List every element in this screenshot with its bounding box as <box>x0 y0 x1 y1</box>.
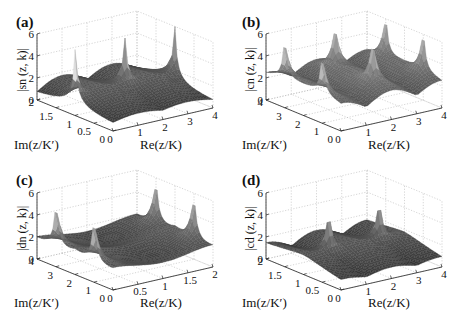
z-axis-label-b: |cn (z, k)| <box>243 48 258 92</box>
x-tick-label: 3 <box>416 274 422 286</box>
y-tick <box>304 274 307 275</box>
y-tick-label: 1 <box>67 118 73 130</box>
x-tick-label: 4 <box>212 109 218 121</box>
z-tick <box>266 214 269 215</box>
surface-d <box>266 210 442 279</box>
z-tick <box>266 236 269 237</box>
panel-b: 02460123401234 (b) |cn (z, k)| Im(z/K′) … <box>231 0 462 159</box>
y-tick-label: 1.5 <box>268 269 282 281</box>
y-axis-label-b: Im(z/K′) <box>242 137 287 153</box>
z-tick-label: 2 <box>258 231 264 243</box>
y-tick <box>266 99 269 100</box>
y-tick <box>322 122 325 123</box>
y-tick-label: 0 <box>100 292 106 304</box>
z-tick <box>266 77 269 78</box>
y-tick <box>56 107 59 108</box>
y-tick-label: 3 <box>276 110 282 122</box>
y-tick-label: 0 <box>328 292 334 304</box>
x-axis-label-a: Re(z/K) <box>140 137 182 153</box>
y-tick <box>322 281 325 282</box>
y-tick <box>37 99 40 100</box>
y-tick-label: 0.5 <box>306 284 320 296</box>
y-tick-label: 2 <box>67 277 73 289</box>
grid-line <box>37 11 213 42</box>
x-axis-label-c: Re(z/K) <box>140 295 182 311</box>
panel-label-a: (a) <box>16 14 34 31</box>
panel-label-d: (d) <box>242 172 260 189</box>
grid-line <box>266 11 442 42</box>
x-tick-label: 4 <box>441 109 447 121</box>
y-tick <box>341 289 344 290</box>
y-tick <box>94 122 97 123</box>
z-tick <box>37 77 40 78</box>
x-tick-label: 3 <box>416 115 422 127</box>
surface-patch <box>172 27 177 62</box>
y-tick-label: 2 <box>29 96 35 108</box>
grid-line <box>266 192 442 223</box>
z-tick <box>37 192 40 193</box>
y-tick <box>285 107 288 108</box>
panel-c: 024600.511.5201234 (c) |dn (z, k)| Im(z/… <box>0 159 231 318</box>
x-tick-label: 2 <box>391 121 397 133</box>
y-tick <box>266 258 269 259</box>
y-tick-label: 4 <box>29 255 35 267</box>
x-tick-label: 0 <box>107 133 113 145</box>
z-axis-label-c: |dn (z, k)| <box>15 206 30 251</box>
z-tick-label: 4 <box>258 209 264 221</box>
x-tick-label: 1.5 <box>183 274 197 286</box>
z-tick <box>266 55 269 56</box>
x-tick-label: 0 <box>335 292 341 304</box>
y-tick <box>94 281 97 282</box>
x-axis-label-d: Re(z/K) <box>368 295 410 311</box>
y-tick <box>341 130 344 131</box>
surface-b <box>266 24 442 106</box>
grid-line <box>266 170 442 201</box>
z-tick <box>266 192 269 193</box>
y-tick-label: 0.5 <box>77 125 91 137</box>
y-tick-label: 1 <box>86 284 92 296</box>
y-tick-label: 1 <box>314 125 320 137</box>
y-axis-label-a: Im(z/K′) <box>14 137 59 153</box>
y-tick <box>75 115 78 116</box>
y-tick-label: 1 <box>295 277 301 289</box>
z-tick <box>37 55 40 56</box>
x-tick-label: 0 <box>335 133 341 145</box>
z-tick <box>37 33 40 34</box>
x-tick-label: 1 <box>162 280 168 292</box>
y-axis-label-d: Im(z/K′) <box>242 295 287 311</box>
z-axis-label-a: |sn (z, k)| <box>15 48 30 92</box>
y-tick <box>285 266 288 267</box>
y-tick-label: 2 <box>258 255 264 267</box>
y-tick <box>304 115 307 116</box>
x-tick-label: 2 <box>212 268 218 280</box>
y-tick-label: 0 <box>100 133 106 145</box>
y-tick-label: 0 <box>328 133 334 145</box>
z-tick-label: 2 <box>258 72 264 84</box>
z-axis-label-d: |cd (z, k)| <box>243 207 258 251</box>
x-tick-label: 4 <box>441 268 447 280</box>
y-axis-label-c: Im(z/K′) <box>14 295 59 311</box>
y-tick <box>75 274 78 275</box>
y-tick-label: 4 <box>258 96 264 108</box>
y-tick <box>56 266 59 267</box>
panel-label-c: (c) <box>16 172 33 189</box>
x-tick-label: 3 <box>187 115 193 127</box>
panel-d: 02460123400.511.52 (d) |cd (z, k)| Im(z/… <box>231 159 462 318</box>
surface-plot-a: 02460123400.511.52 <box>0 0 231 159</box>
z-tick <box>37 214 40 215</box>
y-tick-label: 2 <box>295 118 301 130</box>
z-tick <box>266 33 269 34</box>
panel-label-b: (b) <box>242 14 260 31</box>
surface-a <box>37 27 213 123</box>
y-tick <box>37 258 40 259</box>
panel-a: 02460123400.511.52 (a) |sn (z, k)| Im(z/… <box>0 0 231 159</box>
y-tick-label: 1.5 <box>39 110 53 122</box>
x-axis-label-b: Re(z/K) <box>368 137 410 153</box>
z-tick-label: 4 <box>258 50 264 62</box>
x-tick-label: 0 <box>107 292 113 304</box>
grid-line <box>37 170 213 201</box>
x-tick-label: 2 <box>391 280 397 292</box>
y-tick <box>113 289 116 290</box>
x-tick-label: 2 <box>162 121 168 133</box>
surface-plot-b: 02460123401234 <box>231 0 462 159</box>
